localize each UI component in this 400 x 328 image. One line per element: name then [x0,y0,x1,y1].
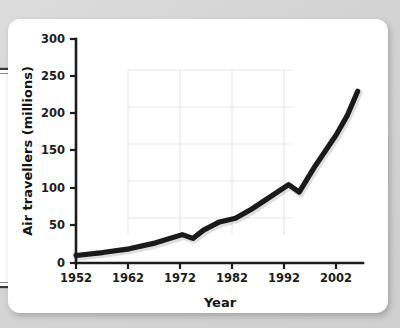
chart-card: 300 250 200 150 100 50 0 1952 19 [8,19,388,313]
x-tick-label: 1992 [268,271,300,285]
gridlines [128,70,292,235]
y-tick-label: 150 [41,143,65,157]
y-tick-label: 100 [41,181,65,195]
x-axis-title: Year [203,295,237,310]
x-tick-label: 1972 [164,271,196,285]
y-tick-label: 0 [57,256,65,270]
y-tick-label: 200 [41,106,65,120]
y-tick-label: 300 [41,32,65,46]
series-line-shadow [78,93,360,257]
x-tick-label: 1962 [112,271,144,285]
x-tick-label: 1982 [216,271,248,285]
x-tick-label: 1952 [60,271,92,285]
screenshot-stage: 300 250 200 150 100 50 0 1952 19 [0,0,400,328]
y-tick-label: 50 [49,218,65,232]
line-chart-figure: 300 250 200 150 100 50 0 1952 19 [8,19,388,313]
x-tick-label: 2002 [320,271,352,285]
y-axis-title: Air travellers (millions) [20,66,35,236]
y-tick-label: 250 [41,69,65,83]
chart-svg: 300 250 200 150 100 50 0 1952 19 [8,19,388,313]
